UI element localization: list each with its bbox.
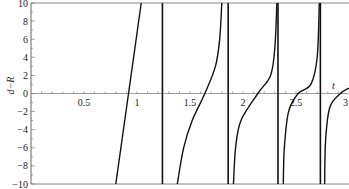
x-tick-label: 3 [343,97,348,108]
y-tick-label: 8 [23,16,28,27]
y-tick-label: −2 [17,106,28,117]
x-tick-label: 1.5 [184,97,197,108]
x-axis-label: t [332,80,335,91]
y-tick-label: 10 [18,0,28,9]
y-tick-label: −4 [17,124,28,135]
x-tick-label: 1 [135,97,140,108]
chart: 1086420−2−4−6−8−100.511.522.53td−R [0,0,349,188]
y-tick-label: −10 [12,179,28,189]
y-axis-label: d−R [5,77,16,95]
y-tick-label: −8 [17,160,28,171]
y-tick-label: 6 [23,34,28,45]
y-tick-label: 2 [23,70,28,81]
y-tick-label: 4 [23,52,28,63]
y-tick-label: 0 [23,88,28,99]
x-tick-label: 2 [241,97,246,108]
plot-area: 1086420−2−4−6−8−100.511.522.53td−R [0,0,349,188]
y-tick-label: −6 [17,142,28,153]
x-tick-label: 0.5 [78,97,91,108]
